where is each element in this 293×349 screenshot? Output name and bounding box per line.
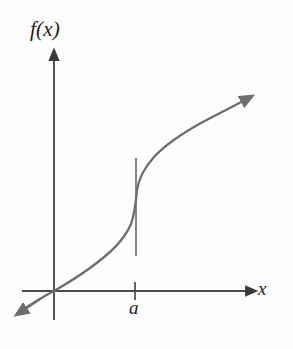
function-curve [27,101,243,307]
graph-canvas [0,0,293,349]
x-tick-label-a: a [129,297,139,319]
function-graph-figure: f(x) x a [0,0,293,349]
y-axis-label: f(x) [30,17,60,42]
function-curve-tail [25,299,40,309]
x-axis-label: x [258,278,266,300]
